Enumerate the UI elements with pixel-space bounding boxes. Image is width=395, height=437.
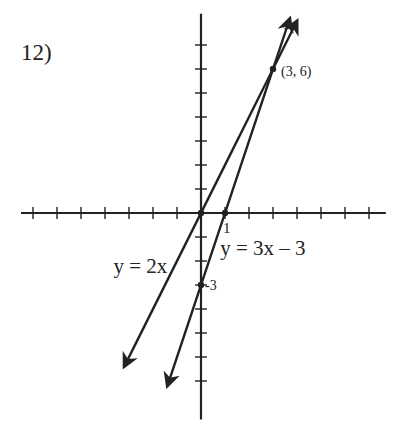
point-dot bbox=[198, 210, 204, 216]
equation-label: y = 2x bbox=[113, 254, 167, 278]
graph-line-2 bbox=[167, 19, 289, 386]
graph-lines bbox=[124, 19, 297, 386]
axes bbox=[21, 14, 386, 420]
point-label: 1 bbox=[223, 220, 231, 236]
coordinate-plane: 1-3(3, 6) y = 2xy = 3x – 3 bbox=[0, 0, 395, 437]
point-dot bbox=[198, 282, 204, 288]
point-label: -3 bbox=[205, 278, 217, 293]
point-dot bbox=[270, 66, 276, 72]
point-label: (3, 6) bbox=[281, 64, 312, 80]
point-dot bbox=[222, 210, 228, 216]
equation-label: y = 3x – 3 bbox=[220, 236, 305, 260]
